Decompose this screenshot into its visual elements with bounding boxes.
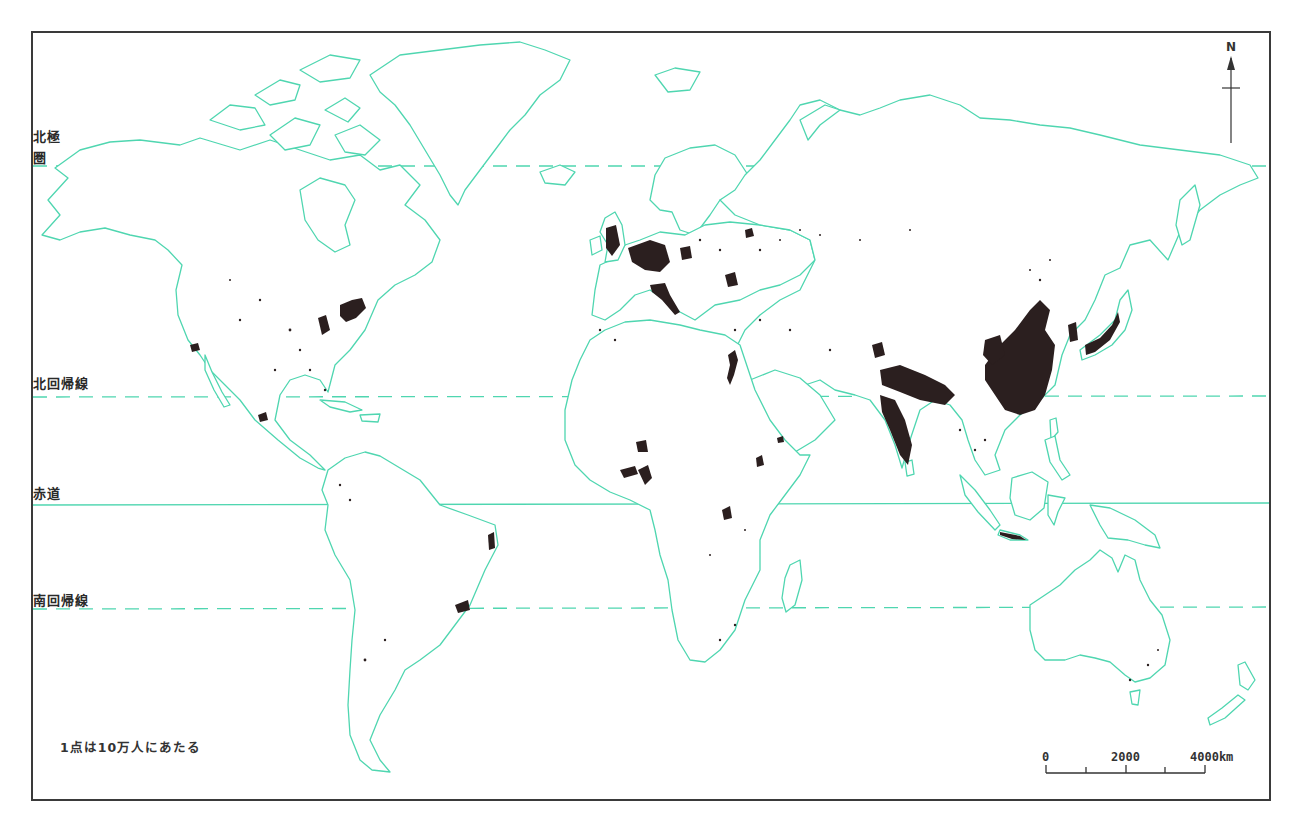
arctic-island	[255, 80, 300, 105]
arctic-island	[210, 105, 265, 130]
scale-bar	[1046, 765, 1205, 773]
cluster-ne-brazil	[488, 532, 495, 550]
cluster-north-nigeria	[636, 440, 648, 452]
tropic-of-cancer-label: 北回帰線	[33, 376, 89, 392]
scale-label-0: 0	[1042, 750, 1049, 764]
cluster-poland	[680, 246, 692, 260]
new-zealand-north	[1238, 662, 1255, 690]
scandinavia-outline	[650, 145, 748, 235]
madagascar	[782, 560, 802, 612]
sulawesi	[1048, 495, 1065, 525]
cuba	[320, 400, 362, 412]
map-legend: 1点は10万人にあたる	[60, 737, 201, 756]
tasmania	[1130, 690, 1140, 705]
arctic-island	[335, 125, 380, 155]
north-label: N	[1226, 40, 1236, 54]
scale-label-4000: 4000km	[1190, 750, 1233, 764]
iceland	[540, 165, 575, 185]
north-america-outline	[42, 138, 440, 470]
coastlines	[42, 42, 1258, 772]
svalbard	[655, 68, 700, 92]
new-guinea	[1090, 505, 1160, 548]
arctic-circle-label-2: 圏	[33, 150, 47, 166]
arctic-circle-label-1: 北極	[33, 129, 61, 145]
tropic-of-capricorn-label: 南回帰線	[33, 593, 89, 609]
south-america-outline	[322, 452, 498, 772]
equator-label: 赤道	[33, 486, 61, 502]
sumatra	[960, 475, 1000, 530]
new-zealand-south	[1208, 695, 1245, 725]
north-arrow	[1222, 56, 1240, 143]
arctic-island	[300, 55, 360, 82]
world-map	[0, 0, 1296, 827]
scale-label-2000: 2000	[1111, 750, 1140, 764]
australia-outline	[1030, 550, 1170, 682]
ireland	[590, 236, 602, 255]
arctic-island	[325, 98, 360, 122]
borneo	[1010, 472, 1048, 520]
philippines	[1045, 436, 1070, 480]
hispaniola	[360, 414, 380, 422]
